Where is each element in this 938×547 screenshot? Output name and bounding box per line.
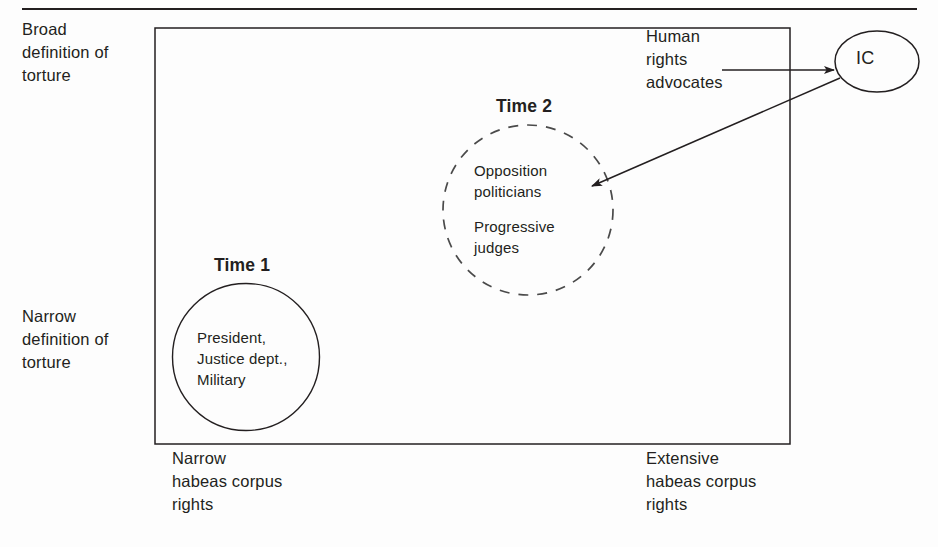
ic-ellipse: [835, 31, 919, 92]
time1-cluster-members: President, Justice dept., Military: [197, 327, 327, 390]
ic-node-label: IC: [856, 47, 874, 70]
axis-label-narrow-definition-of-torture: Narrow definition of torture: [22, 305, 152, 374]
arrow-ic-to-time2: [592, 78, 840, 186]
time2-circle: [443, 125, 613, 295]
time1-cluster-title: Time 1: [214, 254, 270, 277]
axis-label-broad-definition-of-torture: Broad definition of torture: [22, 18, 152, 87]
annotation-human-rights-advocates: Human rights advocates: [646, 25, 756, 94]
figure-canvas: Broad definition of torture Narrow defin…: [0, 0, 938, 547]
axis-label-extensive-habeas-corpus-rights: Extensive habeas corpus rights: [646, 447, 846, 516]
time2-cluster-members-opposition-politicians: Opposition politicians: [474, 160, 614, 202]
time2-cluster-title: Time 2: [496, 95, 552, 118]
axis-label-narrow-habeas-corpus-rights: Narrow habeas corpus rights: [172, 447, 352, 516]
time2-cluster-members-progressive-judges: Progressive judges: [474, 216, 614, 258]
